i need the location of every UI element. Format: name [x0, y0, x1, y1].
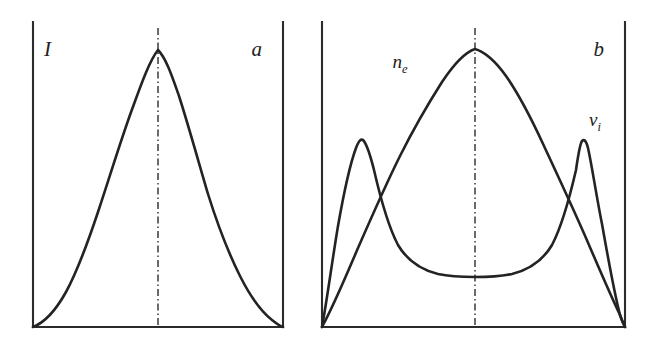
curve-label-nui-subscript: i [597, 120, 601, 134]
two-panel-profile-figure: I a ne νi b [0, 0, 657, 347]
panel-b-label: b [594, 37, 605, 61]
panel-a-axis-label: I [43, 37, 52, 61]
curve-label-ne-base: n [392, 51, 402, 72]
curve-label-ne-subscript: e [402, 62, 408, 76]
panel-a-label: a [252, 37, 263, 61]
